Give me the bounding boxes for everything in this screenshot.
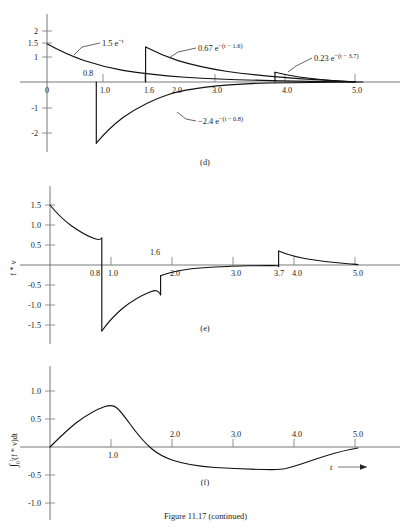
x-ticklabel-e-5_0: 5.0 — [353, 269, 363, 278]
x-ticklabel-0_8: 0.8 — [83, 69, 93, 78]
y-ticklabel-e-1_5: 1.5 — [31, 201, 41, 210]
curve-e-seg4 — [279, 251, 358, 265]
panel-letter-e: (e) — [200, 324, 210, 333]
panel-e: 1.5 1.0 0.5 -0.5 -1.0 -1.5 f * v 0.8 1.0… — [0, 176, 411, 352]
x-ticklabel-f-1_0: 1.0 — [108, 451, 118, 460]
panel-e-plot: 1.5 1.0 0.5 -0.5 -1.0 -1.5 f * v 0.8 1.0… — [0, 176, 411, 352]
panel-d-plot: 2 1.5 1 -1 -2 0 0.8 1.0 1.6 2.0 3.0 4.0 … — [0, 0, 411, 178]
curve-f-integral — [50, 406, 358, 470]
x-ticklabel-1_6: 1.6 — [144, 86, 154, 95]
x-ticklabel-e-3_0: 3.0 — [231, 269, 241, 278]
annotation-curve-3: 0.23 e−(t − 3.7) — [314, 52, 359, 63]
x-axis-label-f: t — [330, 463, 333, 472]
panel-f-plot: 1.0 0.5 -0.5 -1.0 ∫0t(f * v)dt 1.0 2.0 3… — [0, 352, 411, 528]
y-ticklabel-1_5: 1.5 — [28, 39, 38, 48]
panel-letter-d: (d) — [200, 158, 210, 167]
x-ticklabel-e-3_7: 3.7 — [274, 269, 284, 278]
y-ticklabel-f-1_0: 1.0 — [31, 387, 41, 396]
x-ticklabel-f-3_0: 3.0 — [231, 430, 241, 439]
curve-e-seg1 — [50, 205, 102, 240]
leader-label-4 — [177, 112, 196, 121]
panel-letter-f: (f) — [201, 478, 210, 487]
x-ticklabel-e-1_0: 1.0 — [108, 269, 118, 278]
y-ticklabel-e-neg1_0: -1.0 — [28, 301, 41, 310]
y-ticklabel-e-1_0: 1.0 — [31, 221, 41, 230]
leader-label-2 — [169, 48, 196, 58]
y-ticklabel-e-neg0_5: -0.5 — [28, 281, 41, 290]
y-ticklabel-neg2: -2 — [31, 129, 38, 138]
y-ticklabel-neg1: -1 — [31, 104, 38, 113]
x-ticklabel-0: 0 — [45, 86, 49, 95]
x-ticklabel-e-1_6: 1.6 — [150, 248, 160, 257]
x-ticklabel-f-5_0: 5.0 — [353, 430, 363, 439]
x-ticklabel-5_0: 5.0 — [352, 86, 362, 95]
y-ticklabel-f-neg1_0: -1.0 — [28, 499, 41, 508]
y-ticklabel-1: 1 — [34, 53, 38, 62]
x-ticklabel-e-4_0: 4.0 — [292, 269, 302, 278]
y-ticklabel-2: 2 — [34, 27, 38, 36]
x-ticklabel-f-2_0: 2.0 — [170, 430, 180, 439]
panel-d: 2 1.5 1 -1 -2 0 0.8 1.0 1.6 2.0 3.0 4.0 … — [0, 0, 411, 178]
x-ticklabel-3_0: 3.0 — [212, 86, 222, 95]
figure-container: 2 1.5 1 -1 -2 0 0.8 1.0 1.6 2.0 3.0 4.0 … — [0, 0, 411, 528]
y-ticklabel-f-0_5: 0.5 — [31, 415, 41, 424]
x-ticklabel-e-0_8: 0.8 — [90, 269, 100, 278]
x-ticklabel-4_0: 4.0 — [282, 86, 292, 95]
y-ticklabel-e-neg1_5: -1.5 — [28, 321, 41, 330]
x-axis-arrow-head — [360, 464, 367, 470]
leader-label-1 — [74, 43, 100, 55]
x-ticklabel-1_0: 1.0 — [100, 86, 110, 95]
figure-caption: Figure 11.17 (continued) — [0, 512, 411, 521]
annotation-curve-2: 0.67 e−(t − 1.6) — [198, 42, 243, 53]
curve-e-seg2 — [102, 291, 161, 331]
annotation-curve-1: 1.5 e−t — [102, 37, 124, 48]
annotation-curve-4: −2.4 e−(t − 0.8) — [198, 115, 243, 126]
y-ticklabel-e-0_5: 0.5 — [31, 241, 41, 250]
y-axis-label-e: f * v — [9, 260, 18, 276]
x-ticklabel-f-4_0: 4.0 — [292, 430, 302, 439]
leader-label-3 — [288, 58, 312, 72]
y-ticklabel-f-neg0_5: -0.5 — [28, 471, 41, 480]
y-axis-label-f: ∫0t(f * v)dt — [7, 432, 21, 468]
panel-f: 1.0 0.5 -0.5 -1.0 ∫0t(f * v)dt 1.0 2.0 3… — [0, 352, 411, 528]
curve-neg2_4-exp — [96, 82, 355, 143]
